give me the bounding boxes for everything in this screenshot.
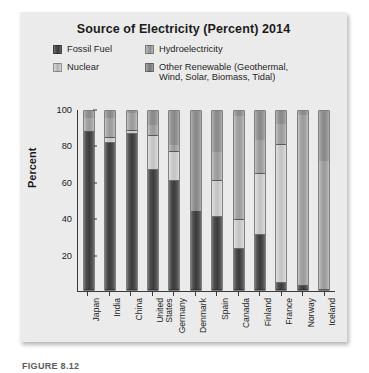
- x-tick-mark: [216, 292, 217, 296]
- stacked-bar[interactable]: [211, 110, 223, 291]
- x-tick-mark: [238, 292, 239, 296]
- x-tick-label: Spain: [221, 298, 230, 320]
- bar-segment: [148, 111, 158, 125]
- bar-segment: [212, 152, 222, 181]
- bar-segment: [84, 118, 94, 132]
- legend-column-left: Fossil Fuel Nuclear: [53, 44, 145, 79]
- bar-segment: [84, 111, 94, 118]
- bar-segment: [105, 118, 115, 138]
- x-tick-label: Norway: [307, 298, 316, 327]
- bar-slot: [190, 110, 202, 291]
- chart-axes: [77, 110, 335, 292]
- bar-segment: [212, 217, 222, 290]
- bar-segment: [234, 116, 244, 220]
- bar-segment: [298, 115, 308, 287]
- bar-segment: [276, 283, 286, 290]
- bar-segment: [127, 134, 137, 290]
- bar-segment: [169, 181, 179, 290]
- stacked-bar[interactable]: [83, 110, 95, 291]
- bar-segment: [105, 111, 115, 118]
- bar-segment: [212, 111, 222, 152]
- y-tick-label: 60: [40, 178, 72, 188]
- x-label-slot: France: [275, 298, 287, 342]
- stacked-bar[interactable]: [126, 110, 138, 291]
- stacked-bar[interactable]: [233, 110, 245, 291]
- stacked-bar[interactable]: [168, 110, 180, 291]
- x-tick-label: Iceland: [328, 298, 337, 326]
- legend-label-nuclear: Nuclear: [67, 62, 99, 73]
- y-axis-title: Percent: [26, 148, 38, 188]
- x-axis-labels: JapanIndiaChinaUnited StatesGermanyDenma…: [77, 298, 335, 342]
- bar-segment: [276, 111, 286, 124]
- bar-slot: [83, 110, 95, 291]
- bar-segment: [148, 136, 158, 170]
- stacked-bar[interactable]: [254, 110, 266, 291]
- bar-segment: [255, 111, 265, 140]
- bar-slot: [104, 110, 116, 291]
- bar-segment: [169, 152, 179, 181]
- bar-slot: [233, 110, 245, 291]
- bar-segment: [84, 132, 94, 290]
- bar-segment: [255, 235, 265, 290]
- bar-slot: [297, 110, 309, 291]
- x-label-slot: Germany: [168, 298, 180, 342]
- bar-segment: [298, 286, 308, 290]
- legend-label-other-renewable: Other Renewable (Geothermal, Wind, Solar…: [159, 62, 288, 83]
- chart-title: Source of Electricity (Percent) 2014: [20, 22, 347, 36]
- bar-segment: [148, 170, 158, 290]
- bar-segment: [127, 113, 137, 131]
- bar-segment: [276, 145, 286, 283]
- bar-slot: [318, 110, 330, 291]
- y-tick-label: 80: [40, 141, 72, 151]
- stacked-bar[interactable]: [275, 110, 287, 291]
- stacked-bar[interactable]: [318, 110, 330, 291]
- x-label-slot: United States: [146, 298, 158, 342]
- bar-slot: [126, 110, 138, 291]
- bar-segment: [191, 111, 201, 211]
- stacked-bar[interactable]: [297, 110, 309, 291]
- stacked-bar[interactable]: [190, 110, 202, 291]
- y-tick-label: 20: [40, 251, 72, 261]
- x-tick-label: Germany: [178, 298, 187, 333]
- x-tick-mark: [324, 292, 325, 296]
- stacked-bar[interactable]: [104, 110, 116, 291]
- x-tick-mark: [87, 292, 88, 296]
- figure-caption: FIGURE 8.12: [22, 361, 79, 371]
- bar-segment: [255, 140, 265, 174]
- x-tick-label: France: [285, 298, 294, 325]
- x-tick-mark: [281, 292, 282, 296]
- bar-segment: [319, 161, 329, 290]
- x-tick-label: Japan: [92, 298, 101, 321]
- bar-slot: [147, 110, 159, 291]
- x-label-slot: Japan: [82, 298, 94, 342]
- bar-segment: [255, 174, 265, 235]
- bar-segment: [234, 249, 244, 290]
- legend-item-hydroelectricity: Hydroelectricity: [145, 44, 343, 55]
- x-label-slot: Denmark: [189, 298, 201, 342]
- y-axis-ticks: 20406080100: [40, 110, 72, 292]
- legend-label-hydroelectricity: Hydroelectricity: [159, 44, 223, 55]
- bar-slot: [168, 110, 180, 291]
- x-label-slot: Canada: [232, 298, 244, 342]
- legend-item-other-renewable: Other Renewable (Geothermal, Wind, Solar…: [145, 62, 343, 83]
- bar-segment: [212, 181, 222, 217]
- x-tick-label: Canada: [242, 298, 251, 328]
- x-label-slot: Iceland: [318, 298, 330, 342]
- legend-label-fossil-fuel: Fossil Fuel: [67, 44, 112, 55]
- x-tick-label: India: [113, 298, 122, 317]
- bar-group: [78, 110, 335, 291]
- x-tick-mark: [109, 292, 110, 296]
- x-label-slot: Spain: [211, 298, 223, 342]
- bar-segment: [169, 111, 179, 145]
- x-tick-label: China: [135, 298, 144, 320]
- y-tick-label: 100: [40, 105, 72, 115]
- bar-segment: [148, 125, 158, 136]
- bar-segment: [105, 143, 115, 290]
- bar-segment: [234, 220, 244, 249]
- y-tick-label: 40: [40, 214, 72, 224]
- x-label-slot: China: [125, 298, 137, 342]
- legend-item-nuclear: Nuclear: [53, 62, 145, 73]
- figure-card: Source of Electricity (Percent) 2014 Fos…: [20, 12, 347, 342]
- legend-column-right: Hydroelectricity Other Renewable (Geothe…: [145, 44, 343, 90]
- stacked-bar[interactable]: [147, 110, 159, 291]
